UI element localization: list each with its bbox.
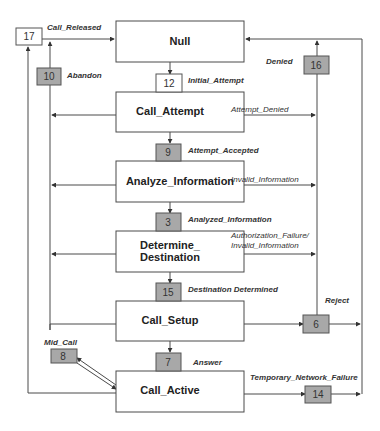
label-invalid-information: Invalid_Information — [231, 175, 299, 184]
svg-text:Call_Attempt: Call_Attempt — [136, 105, 204, 117]
svg-text:6: 6 — [313, 319, 319, 330]
pic-16: 16 — [304, 56, 329, 74]
svg-text:Determine_: Determine_ — [140, 239, 201, 251]
pic-17: 17 — [16, 28, 42, 45]
label-invalid-information-2: Invalid_Information — [231, 241, 299, 250]
label-temporary-network-failure: Temporary_Network_Failure — [250, 373, 358, 382]
label-denied: Denied — [266, 57, 294, 66]
svg-text:Null: Null — [170, 35, 191, 47]
label-initial-attempt: Initial_Attempt — [188, 76, 244, 85]
state-analyze-information: Analyze_Information — [116, 161, 244, 202]
svg-text:Destination: Destination — [140, 251, 200, 263]
pic-3: 3 — [156, 213, 181, 231]
label-abandon: Abandon — [66, 71, 102, 80]
state-call-attempt: Call_Attempt — [116, 92, 244, 132]
svg-text:8: 8 — [60, 351, 66, 362]
svg-text:Analyze_Information: Analyze_Information — [126, 175, 234, 187]
label-attempt-accepted: Attempt_Accepted — [187, 146, 260, 155]
pic-6: 6 — [303, 315, 329, 333]
pic-14: 14 — [305, 386, 331, 403]
svg-text:10: 10 — [43, 71, 55, 82]
label-destination-determined: Destination Determined — [188, 285, 279, 294]
state-null: Null — [116, 21, 244, 62]
svg-text:Call_Active: Call_Active — [140, 384, 199, 396]
pic-9: 9 — [156, 144, 181, 161]
pic-7: 7 — [156, 353, 181, 371]
svg-text:3: 3 — [165, 217, 171, 228]
svg-text:16: 16 — [310, 60, 322, 71]
svg-text:Call_Setup: Call_Setup — [142, 314, 199, 326]
label-analyzed-information: Analyzed_Information — [187, 215, 272, 224]
label-answer: Answer — [192, 358, 223, 367]
pic-8: 8 — [51, 349, 77, 363]
svg-text:15: 15 — [162, 287, 174, 298]
svg-text:9: 9 — [165, 147, 171, 158]
label-reject: Reject — [325, 296, 349, 305]
call-state-diagram: Null Call_Attempt Analyze_Information De… — [0, 0, 380, 431]
state-determine-destination: Determine_ Destination — [116, 231, 244, 272]
pic-15: 15 — [156, 283, 181, 301]
state-call-active: Call_Active — [116, 371, 244, 412]
pic-12: 12 — [156, 74, 182, 92]
svg-text:12: 12 — [163, 78, 175, 89]
label-attempt-denied: Attempt_Denied — [230, 105, 289, 114]
state-call-setup: Call_Setup — [116, 301, 244, 341]
svg-text:7: 7 — [165, 357, 171, 368]
pic-10: 10 — [37, 68, 61, 85]
svg-text:14: 14 — [312, 389, 324, 400]
label-call-released: Call_Released — [47, 23, 102, 32]
svg-text:17: 17 — [23, 31, 35, 42]
label-mid-call: Mid_Call — [44, 338, 78, 347]
label-authorization-failure: Authorization_Failure/ — [230, 231, 310, 240]
